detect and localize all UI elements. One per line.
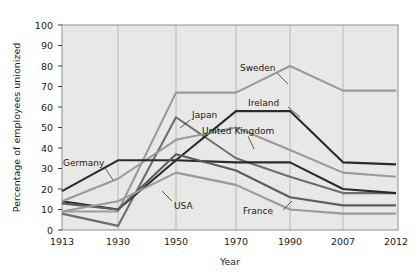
xlabel-1913: 1913 <box>50 236 74 247</box>
y-axis-title: Percentage of employees unionized <box>11 43 22 213</box>
y-axis-ticks <box>58 25 62 230</box>
annotation-ireland: Ireland <box>248 98 279 108</box>
xlabel-1930: 1930 <box>106 236 130 247</box>
xlabel-1950: 1950 <box>164 236 188 247</box>
x-axis-labels: 1913 1930 1950 1970 1990 2007 2012 <box>50 236 408 247</box>
ylabel-70: 70 <box>41 81 53 92</box>
xlabel-1970: 1970 <box>224 236 248 247</box>
ylabel-20: 20 <box>41 184 53 195</box>
ylabel-0: 0 <box>47 225 53 236</box>
xlabel-1990: 1990 <box>278 236 302 247</box>
chart-svg: 100 90 80 70 60 50 40 30 20 10 0 Percent… <box>0 0 420 280</box>
annotation-sweden: Sweden <box>240 63 276 73</box>
x-axis-title: Year <box>219 256 240 267</box>
line-chart-union-density: 100 90 80 70 60 50 40 30 20 10 0 Percent… <box>0 0 420 280</box>
annotation-united-kingdom: United Kingdom <box>202 126 274 136</box>
xlabel-2012: 2012 <box>384 236 408 247</box>
ylabel-90: 90 <box>41 40 53 51</box>
annotation-germany: Germany <box>63 158 105 168</box>
annotation-france: France <box>243 206 273 216</box>
ylabel-80: 80 <box>41 61 53 72</box>
ylabel-60: 60 <box>41 102 53 113</box>
ylabel-100: 100 <box>35 20 53 31</box>
y-axis-labels: 100 90 80 70 60 50 40 30 20 10 0 <box>35 20 53 236</box>
annotation-japan: Japan <box>191 110 217 120</box>
ylabel-30: 30 <box>41 163 53 174</box>
ylabel-40: 40 <box>41 143 53 154</box>
ylabel-50: 50 <box>41 122 53 133</box>
xlabel-2007: 2007 <box>331 236 355 247</box>
ylabel-10: 10 <box>41 204 53 215</box>
annotation-usa: USA <box>174 201 193 211</box>
